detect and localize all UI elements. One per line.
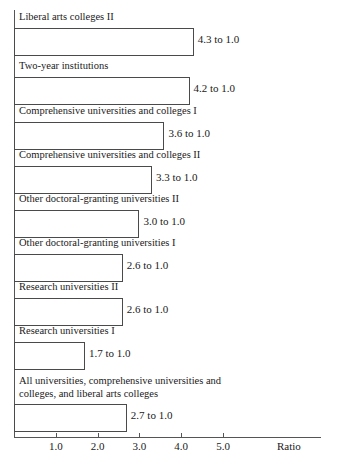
bar-rect	[14, 122, 164, 150]
bar-category-label: Research universities I	[19, 325, 115, 338]
bar-rect	[14, 404, 127, 432]
bar-value-label: 3.0 to 1.0	[143, 215, 185, 228]
axis-tick-label: 4.0	[166, 440, 196, 453]
axis-tick	[223, 433, 224, 438]
bar-category-label: All universities, comprehensive universi…	[19, 375, 234, 400]
horizontal-axis-line	[14, 437, 321, 438]
axis-tick-label: 1.0	[41, 440, 71, 453]
axis-tick	[181, 433, 182, 438]
bar-rect	[14, 254, 123, 282]
axis-tick-label: 5.0	[208, 440, 238, 453]
bar-value-label: 2.7 to 1.0	[131, 409, 173, 422]
bar-rect	[14, 298, 123, 326]
axis-title-ratio: Ratio	[277, 440, 301, 453]
bar-value-label: 4.3 to 1.0	[198, 33, 240, 46]
bar-rect	[14, 28, 194, 56]
bar-value-label: 2.6 to 1.0	[127, 303, 169, 316]
axis-tick	[98, 433, 99, 438]
bar-rect	[14, 166, 152, 194]
bar-category-label: Other doctoral-granting universities II	[19, 193, 179, 206]
axis-tick-label: 3.0	[124, 440, 154, 453]
bar-value-label: 4.2 to 1.0	[194, 82, 236, 95]
horizontal-bar-chart: Liberal arts colleges II4.3 to 1.0Two-ye…	[0, 0, 339, 459]
bar-value-label: 3.3 to 1.0	[156, 171, 198, 184]
bar-value-label: 1.7 to 1.0	[89, 347, 131, 360]
bar-value-label: 3.6 to 1.0	[168, 127, 210, 140]
bar-rect	[14, 210, 139, 238]
bar-category-label: Two-year institutions	[19, 60, 108, 73]
bar-category-label: Liberal arts colleges II	[19, 11, 114, 24]
bar-category-label: Other doctoral-granting universities I	[19, 237, 176, 250]
axis-tick	[139, 433, 140, 438]
bar-category-label: Comprehensive universities and colleges …	[19, 149, 200, 162]
bar-value-label: 2.6 to 1.0	[127, 259, 169, 272]
bar-category-label: Research universities II	[19, 281, 118, 294]
bar-rect	[14, 77, 190, 105]
axis-tick-label: 2.0	[83, 440, 113, 453]
bar-category-label: Comprehensive universities and colleges …	[19, 105, 197, 118]
bar-rect	[14, 342, 85, 370]
axis-tick	[56, 433, 57, 438]
